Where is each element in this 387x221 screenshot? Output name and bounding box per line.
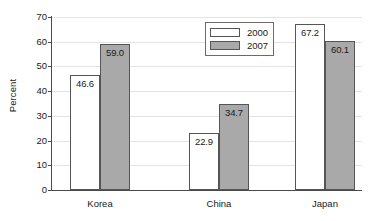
bar-value-label: 60.1 bbox=[326, 45, 354, 55]
y-tick-label: 40 bbox=[25, 86, 47, 96]
y-tick-label: 50 bbox=[25, 62, 47, 72]
x-category-label: Korea bbox=[87, 198, 112, 209]
bar-value-label: 59.0 bbox=[101, 48, 129, 58]
gridline bbox=[52, 17, 362, 18]
bar-value-label: 46.6 bbox=[71, 79, 99, 89]
y-tick-label: 0 bbox=[25, 185, 47, 195]
legend-item-2007: 2007 bbox=[210, 39, 268, 52]
legend-label-2007: 2007 bbox=[247, 41, 268, 51]
x-category-label: Japan bbox=[312, 198, 338, 209]
y-tick-label: 70 bbox=[25, 12, 47, 22]
y-axis-title: Percent bbox=[6, 0, 20, 190]
y-axis-tick-labels: 010203040506070 bbox=[22, 0, 47, 221]
bar: 22.9 bbox=[189, 133, 219, 190]
bar-value-label: 34.7 bbox=[220, 108, 248, 118]
bar: 59.0 bbox=[100, 44, 130, 190]
bar: 60.1 bbox=[325, 41, 355, 190]
bar-value-label: 67.2 bbox=[296, 28, 324, 38]
bar: 46.6 bbox=[70, 75, 100, 190]
y-axis-line bbox=[51, 16, 52, 190]
y-tick-label: 10 bbox=[25, 161, 47, 171]
y-tick-label: 60 bbox=[25, 37, 47, 47]
bar-chart: Percent 010203040506070 46.659.022.934.7… bbox=[0, 0, 387, 221]
y-tick-label: 30 bbox=[25, 111, 47, 121]
y-tick-label: 20 bbox=[25, 136, 47, 146]
bar: 34.7 bbox=[219, 104, 249, 190]
legend-swatch-2007-icon bbox=[210, 41, 240, 50]
legend-swatch-2000-icon bbox=[210, 28, 240, 37]
bar-value-label: 22.9 bbox=[190, 137, 218, 147]
legend-label-2000: 2000 bbox=[247, 28, 268, 38]
x-category-label: China bbox=[207, 198, 232, 209]
y-axis-title-text: Percent bbox=[8, 78, 19, 111]
bar: 67.2 bbox=[295, 24, 325, 190]
chart-legend: 2000 2007 bbox=[205, 22, 274, 56]
legend-item-2000: 2000 bbox=[210, 26, 268, 39]
